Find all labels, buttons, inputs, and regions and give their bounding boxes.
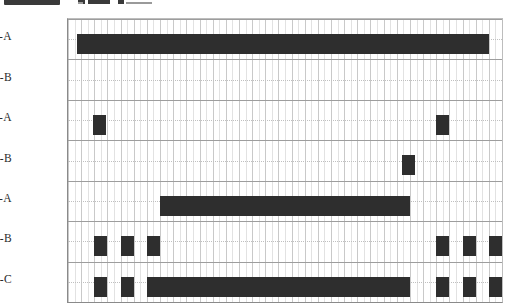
y-axis-label-ss-a: SS-A (0, 30, 12, 42)
row-midline (68, 80, 502, 81)
bar-pl-c-1 (121, 277, 134, 297)
artifact-shape-1 (4, 0, 60, 5)
grid-line-major (502, 19, 503, 302)
bar-ss-a-0 (77, 34, 489, 54)
bar-pl-c-4 (463, 277, 476, 297)
row-separator (68, 140, 502, 141)
row-separator (68, 181, 502, 182)
y-axis-label-pb-a: PB-A (0, 111, 12, 123)
y-axis-label-pb-b: PB-B (0, 152, 12, 164)
artifact-shape-6 (78, 2, 83, 4)
bar-pl-b-3 (436, 236, 449, 256)
y-axis-label-pl-c: PL-C (0, 273, 12, 285)
bar-pl-b-1 (121, 236, 134, 256)
bar-pl-c-2 (147, 277, 410, 297)
artifact-shape-4 (118, 0, 124, 4)
bar-pl-b-4 (463, 236, 476, 256)
row-midline (68, 161, 502, 162)
row-separator (68, 302, 502, 303)
row-separator (68, 59, 502, 60)
bar-pl-b-2 (147, 236, 160, 256)
plot-area (67, 18, 503, 303)
cropped-top-artifact (0, 0, 518, 14)
gantt-chart: SS-A SS-B PB-A PB-B PL-A PL-B PL-C (0, 14, 518, 307)
bar-pb-a-1 (436, 115, 449, 135)
bar-pb-a-0 (93, 115, 106, 135)
y-axis-label-pl-b: PL-B (0, 232, 12, 244)
bar-pb-b-0 (402, 155, 415, 175)
bar-pl-c-3 (436, 277, 449, 297)
artifact-shape-3 (88, 0, 110, 4)
bar-pl-c-5 (489, 277, 502, 297)
bar-pl-a-0 (160, 196, 410, 216)
y-axis-label-ss-b: SS-B (0, 71, 12, 83)
bar-pl-b-5 (489, 236, 502, 256)
artifact-shape-5 (126, 2, 152, 4)
bar-pl-b-0 (94, 236, 107, 256)
row-separator (68, 262, 502, 263)
y-axis-label-pl-a: PL-A (0, 192, 12, 204)
row-separator (68, 100, 502, 101)
bar-pl-c-0 (94, 277, 107, 297)
row-separator (68, 19, 502, 20)
row-separator (68, 221, 502, 222)
